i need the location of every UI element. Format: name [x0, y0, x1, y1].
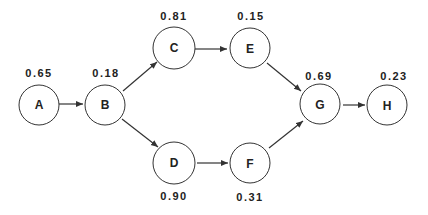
- node-h: H 0.23: [367, 70, 408, 125]
- node-e: E 0.15: [230, 10, 270, 68]
- node-d-value: 0.90: [160, 190, 187, 202]
- node-d: D 0.90: [153, 142, 195, 202]
- edge-f-g: [269, 121, 303, 148]
- node-a-label: A: [35, 98, 44, 112]
- node-a-value: 0.65: [25, 67, 52, 79]
- node-a: A 0.65: [19, 67, 59, 125]
- node-e-value: 0.15: [237, 10, 264, 22]
- edge-e-g: [267, 63, 301, 91]
- node-h-value: 0.23: [380, 70, 407, 82]
- edge-b-d: [122, 119, 158, 147]
- node-h-label: H: [383, 99, 392, 113]
- node-g-value: 0.69: [305, 70, 332, 82]
- node-g: G 0.69: [300, 70, 340, 124]
- node-e-label: E: [246, 42, 254, 56]
- node-f-label: F: [246, 157, 253, 171]
- node-c: C 0.81: [153, 10, 195, 69]
- node-f: F 0.31: [230, 143, 270, 203]
- edge-b-c: [123, 62, 157, 91]
- graph-diagram: A 0.65 B 0.18 C 0.81 D 0.90 E 0.15 F 0.3…: [0, 0, 428, 215]
- node-f-value: 0.31: [236, 191, 263, 203]
- node-b: B 0.18: [85, 67, 125, 125]
- node-g-label: G: [315, 98, 324, 112]
- node-b-value: 0.18: [92, 67, 119, 79]
- node-c-label: C: [170, 41, 179, 55]
- node-c-value: 0.81: [160, 10, 187, 22]
- node-d-label: D: [170, 156, 179, 170]
- node-b-label: B: [101, 98, 110, 112]
